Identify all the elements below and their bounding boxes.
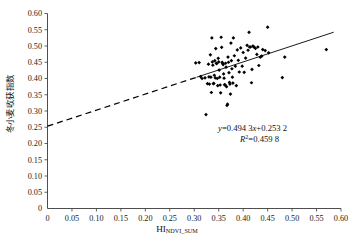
scatter-point: [194, 61, 198, 65]
scatter-point: [234, 84, 238, 88]
x-tick-label: 0.35: [212, 214, 226, 223]
equation-slope: =0.494 3: [222, 123, 253, 133]
scatter-point: [220, 45, 224, 49]
scatter-point: [204, 113, 208, 117]
scatter-point: [207, 62, 211, 66]
scatter-point: [231, 75, 235, 79]
y-tick-label: 0.35: [28, 91, 42, 100]
x-tick-label: 0.05: [65, 214, 79, 223]
scatter-point: [280, 76, 284, 80]
x-tick-label: 0.20: [138, 214, 152, 223]
scatter-points-group: [194, 25, 328, 116]
scatter-point: [237, 70, 241, 74]
trend-line-solid-fit: [197, 32, 334, 77]
y-tick-label: 0.10: [28, 172, 42, 181]
scatter-point: [244, 56, 248, 60]
scatter-point: [266, 25, 270, 29]
equation-line: y=0.494 3x+0.253 2: [217, 123, 287, 133]
x-axis-tick-group: 00.050.100.150.200.250.300.350.400.450.5…: [45, 209, 348, 223]
scatter-point: [217, 68, 221, 72]
scatter-point: [241, 51, 245, 55]
scatter-point: [231, 81, 235, 85]
y-tick-label: 0.60: [28, 9, 42, 18]
y-tick-label: 0.20: [28, 139, 42, 148]
scatter-point: [219, 35, 223, 39]
scatter-point: [211, 63, 215, 67]
scatter-point: [233, 54, 237, 58]
scatter-point: [229, 92, 233, 96]
x-tick-label: 0.45: [260, 214, 274, 223]
scatter-point: [240, 64, 244, 68]
y-tick-label: 0.45: [28, 58, 42, 67]
x-tick-label: 0.10: [89, 214, 103, 223]
scatter-point: [230, 67, 234, 71]
y-tick-label: 0.05: [28, 188, 42, 197]
y-tick-label: 0.15: [28, 156, 42, 165]
y-tick-label: 0.50: [28, 42, 42, 51]
scatter-point: [324, 48, 328, 52]
y-tick-label: 0.25: [28, 123, 42, 132]
scatter-point: [222, 76, 226, 80]
x-tick-label: 0.40: [236, 214, 250, 223]
scatter-point: [214, 47, 218, 51]
scatter-point: [219, 91, 223, 95]
x-tick-label: 0.15: [114, 214, 128, 223]
y-tick-label: 0.30: [28, 107, 42, 116]
y-tick-label: 0.55: [28, 26, 42, 35]
r-squared-value: =0.459 8: [248, 134, 279, 144]
axis-frame: [48, 14, 342, 209]
scatter-point: [227, 60, 231, 64]
x-tick-label: 0.55: [309, 214, 323, 223]
x-tick-label: 0.60: [334, 214, 348, 223]
scatter-point: [209, 53, 213, 57]
y-tick-label: 0: [38, 204, 42, 213]
trend-line-dashed-extrapolation: [48, 77, 197, 126]
y-tick-label: 0.40: [28, 74, 42, 83]
scatter-chart-figure: 冬小麦收获指数 00.050.100.150.200.250.300.350.4…: [0, 0, 354, 242]
scatter-point: [210, 36, 214, 40]
x-tick-label: 0.25: [163, 214, 177, 223]
scatter-point: [247, 31, 251, 35]
scatter-point: [222, 72, 226, 76]
x-tick-label: 0: [45, 214, 49, 223]
scatter-point: [236, 58, 240, 62]
scatter-point: [232, 36, 236, 40]
scatter-point: [250, 68, 254, 72]
scatter-point: [239, 46, 243, 50]
scatter-point: [203, 76, 207, 80]
scatter-point: [197, 61, 201, 65]
regression-annotation: y=0.494 3x+0.253 2 R2=0.459 8: [217, 123, 287, 144]
scatter-point: [255, 53, 259, 57]
r-squared-line: R2=0.459 8: [239, 134, 279, 144]
scatter-point: [210, 91, 214, 95]
scatter-point: [226, 55, 230, 59]
scatter-point: [229, 41, 233, 45]
scatter-point: [283, 55, 287, 59]
x-tick-label: 0.50: [285, 214, 299, 223]
scatter-point: [257, 64, 261, 68]
scatter-point: [216, 57, 220, 61]
x-axis-title-subscript: NDVI_SUM: [166, 227, 198, 234]
x-tick-label: 0.30: [187, 214, 201, 223]
scatter-point: [250, 81, 254, 85]
y-axis-tick-group: 00.050.100.150.200.250.300.350.400.450.5…: [28, 9, 48, 213]
scatter-point: [246, 48, 250, 52]
scatter-point: [230, 59, 234, 63]
x-axis-title-main: HI: [156, 224, 166, 234]
plot-area-svg: 00.050.100.150.200.250.300.350.400.450.5…: [0, 0, 354, 242]
scatter-point: [242, 70, 246, 74]
equation-intercept: +0.253 2: [256, 123, 287, 133]
scatter-point: [227, 71, 231, 75]
x-axis-title: HINDVI_SUM: [156, 224, 198, 234]
scatter-point: [235, 48, 239, 52]
trend-line-group: [48, 32, 334, 126]
